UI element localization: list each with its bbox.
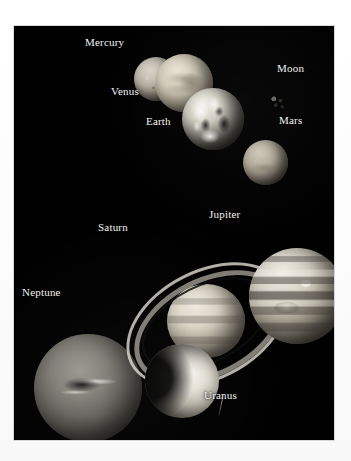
label-mercury: Mercury [85, 37, 124, 48]
label-moon: Moon [277, 63, 304, 74]
label-venus: Venus [111, 86, 139, 97]
label-uranus: Uranus [204, 390, 237, 401]
label-mars: Mars [279, 115, 302, 126]
label-neptune: Neptune [22, 287, 61, 298]
planet-uranus [145, 344, 219, 418]
planet-jupiter [249, 248, 334, 344]
solar-system-photo-plate: Mercury Venus Earth Moon Mars Jupiter Sa… [14, 26, 334, 440]
photo-page: Mercury Venus Earth Moon Mars Jupiter Sa… [0, 0, 351, 461]
great-red-spot [274, 302, 299, 314]
label-jupiter: Jupiter [209, 209, 240, 220]
planet-mars [243, 140, 288, 185]
moon [266, 89, 292, 115]
planet-earth [182, 88, 244, 150]
jupiter-white-oval [301, 280, 312, 288]
label-saturn: Saturn [98, 222, 128, 233]
label-earth: Earth [146, 116, 171, 127]
